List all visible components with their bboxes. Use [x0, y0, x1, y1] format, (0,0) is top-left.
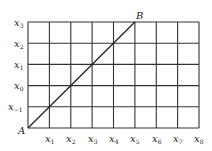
y-label: x0 [14, 80, 24, 92]
x-label: x1 [45, 133, 54, 145]
x-label: x2 [66, 133, 76, 145]
y-label: x1 [14, 59, 23, 71]
grid-diagram: A B x−1 x0 x1 x2 x3 x1 x2 x3 x4 x5 x6 x7… [0, 0, 212, 151]
grid-lines [28, 22, 199, 128]
y-axis-labels: x−1 x0 x1 x2 x3 [8, 17, 24, 113]
y-label: x2 [14, 38, 24, 50]
y-label: x−1 [8, 101, 23, 113]
x-label: x5 [130, 133, 140, 145]
x-label: x3 [88, 133, 98, 145]
x-axis-labels: x1 x2 x3 x4 x5 x6 x7 x8 [45, 133, 204, 145]
point-b-label: B [135, 10, 143, 21]
point-a-label: A [17, 125, 25, 136]
diagonal-line-a-to-b [28, 22, 135, 128]
x-label: x4 [109, 133, 119, 145]
x-label: x7 [173, 133, 183, 145]
x-label: x6 [152, 133, 162, 145]
x-label: x8 [194, 133, 204, 145]
y-label: x3 [14, 17, 24, 29]
